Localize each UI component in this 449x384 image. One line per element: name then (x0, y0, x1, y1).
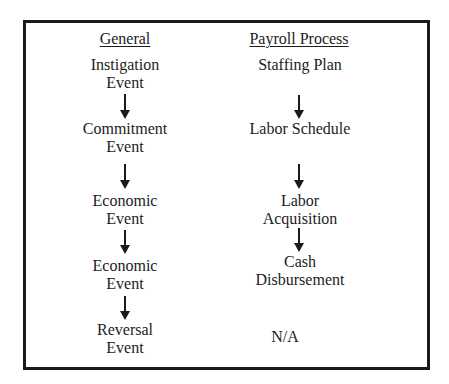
down-arrow-icon (120, 296, 130, 320)
general-column-header: General (45, 30, 205, 48)
step-line: Event (45, 138, 205, 156)
down-arrow-icon (294, 95, 304, 119)
step-line: Event (45, 275, 205, 293)
payroll-step-not-applicable: N/A (205, 328, 365, 346)
step-line: Event (45, 210, 205, 228)
payroll-step-labor-schedule: Labor Schedule (220, 120, 380, 138)
down-arrow-icon (120, 164, 130, 189)
step-line: Disbursement (220, 271, 380, 289)
general-step-commitment-event: Commitment Event (45, 120, 205, 156)
general-step-economic-event-1: Economic Event (45, 192, 205, 228)
step-line: Economic (45, 257, 205, 275)
down-arrow-icon (120, 230, 130, 254)
payroll-step-staffing-plan: Staffing Plan (220, 56, 380, 74)
general-step-economic-event-2: Economic Event (45, 257, 205, 293)
step-line: N/A (205, 328, 365, 346)
general-step-instigation-event: Instigation Event (45, 56, 205, 92)
step-line: Event (45, 339, 205, 357)
step-line: Commitment (45, 120, 205, 138)
payroll-step-labor-acquisition: Labor Acquisition (220, 192, 380, 228)
step-line: Labor Schedule (220, 120, 380, 138)
down-arrow-icon (120, 94, 130, 119)
step-line: Event (45, 74, 205, 92)
step-line: Acquisition (220, 210, 380, 228)
payroll-step-cash-disbursement: Cash Disbursement (220, 253, 380, 289)
step-line: Labor (220, 192, 380, 210)
down-arrow-icon (294, 228, 304, 252)
step-line: Instigation (45, 56, 205, 74)
step-line: Economic (45, 192, 205, 210)
step-line: Reversal (45, 321, 205, 339)
general-step-reversal-event: Reversal Event (45, 321, 205, 357)
down-arrow-icon (294, 164, 304, 189)
step-line: Staffing Plan (220, 56, 380, 74)
payroll-column-header: Payroll Process (219, 30, 379, 48)
step-line: Cash (220, 253, 380, 271)
